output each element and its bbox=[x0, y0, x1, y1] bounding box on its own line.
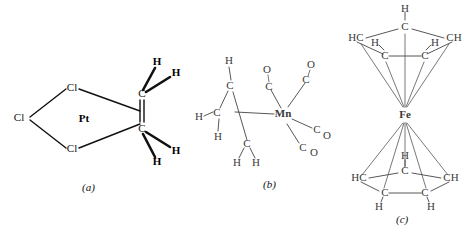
caption-b: (b) bbox=[263, 178, 276, 190]
bond-fe-bottom-left bbox=[362, 123, 403, 175]
atom-top-c-apex: C bbox=[401, 20, 408, 32]
atom-top-c-inner-right: C bbox=[421, 49, 428, 61]
atom-bottom-h-apex: H bbox=[401, 149, 409, 161]
bond-bottom-apex-to-right bbox=[412, 173, 441, 178]
bond-fe-bottom-right bbox=[407, 123, 448, 175]
atom-top-c-left: HC bbox=[348, 31, 363, 43]
atom-top-h-inner-left: H bbox=[371, 36, 379, 48]
atom-bottom-h-front-right: H bbox=[427, 200, 435, 212]
organometallic-figure: Cl Cl Cl Pt C C H H H H H C C H H C bbox=[0, 0, 469, 238]
atom-bottom-h-front-left: H bbox=[375, 200, 383, 212]
bond-top-apex-to-right bbox=[412, 29, 444, 38]
atom-top-c-inner-left: C bbox=[381, 49, 388, 61]
caption-a: (a) bbox=[82, 181, 95, 193]
bond-fe-top-innerright bbox=[406, 62, 424, 107]
atom-bottom-c-apex: C bbox=[401, 164, 408, 176]
bond-bottom-apex-to-left bbox=[369, 173, 398, 178]
bond-bottom-right-to-frontright bbox=[431, 182, 449, 191]
caption-c: (c) bbox=[396, 213, 408, 225]
bond-bottom-left-to-frontleft bbox=[361, 182, 379, 191]
atom-top-c-right: CH bbox=[446, 31, 461, 43]
atom-fe: Fe bbox=[399, 108, 411, 120]
bond-fe-top-innerleft bbox=[386, 62, 404, 107]
atom-bottom-c-front-left: C bbox=[381, 186, 388, 198]
atom-bottom-c-right: CH bbox=[443, 171, 458, 183]
structure-c-ferrocene: H C HC CH H H C C Fe H C HC CH C C H H bbox=[0, 0, 469, 238]
atom-top-h-apex: H bbox=[401, 2, 409, 14]
atom-top-h-inner-right: H bbox=[431, 36, 439, 48]
atom-bottom-c-front-right: C bbox=[421, 186, 428, 198]
atom-bottom-c-left: HC bbox=[351, 171, 366, 183]
bond-fe-bottom-frontright bbox=[406, 123, 426, 188]
